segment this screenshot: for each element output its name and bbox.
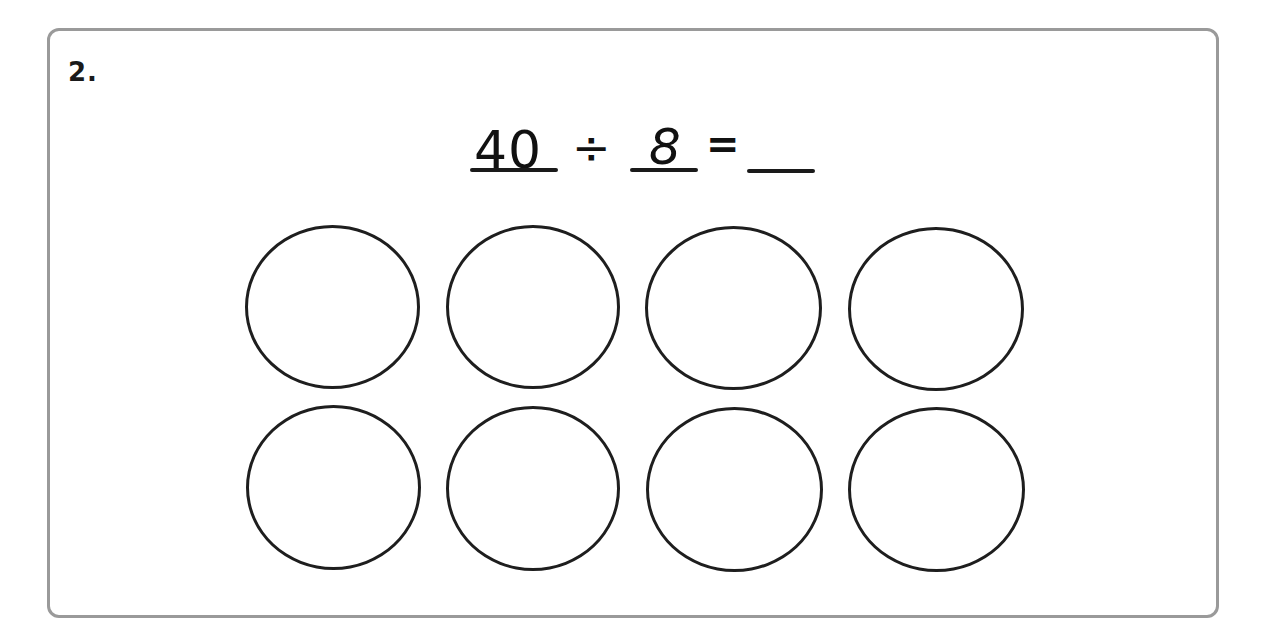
quotient[interactable] <box>750 124 814 168</box>
divisor-blank <box>630 168 698 172</box>
division-sign: ÷ <box>572 124 611 170</box>
equals-sign: = <box>706 124 740 164</box>
dividend-blank <box>470 168 558 172</box>
group-circle[interactable] <box>645 226 822 390</box>
division-equation: 40 ÷ 8 = <box>0 0 1272 200</box>
group-circle[interactable] <box>848 407 1025 572</box>
group-circle[interactable] <box>245 225 420 389</box>
quotient-blank[interactable] <box>747 169 815 173</box>
group-circle[interactable] <box>646 407 823 572</box>
group-circle[interactable] <box>246 405 421 570</box>
group-circle[interactable] <box>446 225 620 389</box>
group-circle[interactable] <box>446 406 620 571</box>
group-circle[interactable] <box>848 227 1024 391</box>
divisor: 8 <box>649 122 681 172</box>
